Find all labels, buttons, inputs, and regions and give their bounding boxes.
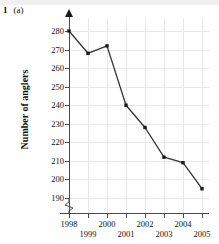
data-point — [200, 187, 203, 190]
data-point — [124, 104, 127, 107]
data-point — [105, 44, 108, 47]
series-markers — [67, 29, 203, 190]
data-series — [0, 0, 219, 244]
data-point — [67, 29, 70, 32]
chart-page: 1(a) — [0, 0, 219, 244]
data-point — [162, 155, 165, 158]
data-point — [86, 52, 89, 55]
data-point — [181, 161, 184, 164]
line-chart: 280 270 260 250 240 230 220 210 200 190 … — [0, 0, 219, 244]
data-point — [143, 126, 146, 129]
